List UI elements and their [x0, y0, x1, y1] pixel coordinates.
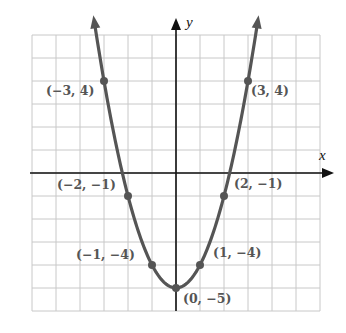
coordinate-axes: x y: [30, 14, 334, 311]
point-label: (2, −1): [234, 176, 282, 191]
plotted-point: [172, 284, 180, 292]
point-labels: (−3, 4) (−2, −1) (−1, −4) (0, −5) (1, −4…: [46, 83, 289, 306]
curve-arrow-right-icon: [252, 15, 262, 29]
x-axis-arrow-icon: [322, 168, 334, 178]
point-label: (−3, 4): [46, 83, 94, 98]
point-label: (−1, −4): [76, 247, 135, 262]
point-label: (0, −5): [183, 291, 231, 306]
plotted-point: [100, 77, 108, 85]
y-axis-label: y: [184, 14, 193, 30]
point-label: (1, −4): [213, 245, 261, 260]
point-label: (−2, −1): [57, 177, 116, 192]
plotted-point: [148, 261, 156, 269]
plotted-point: [124, 192, 132, 200]
plotted-point: [220, 192, 228, 200]
point-label: (3, 4): [251, 83, 289, 98]
plotted-point: [196, 261, 204, 269]
parabola-graph: x y (−3, 4) (−2, −1) (−1, −4) (0, −5) (1…: [0, 0, 346, 333]
x-axis-label: x: [318, 147, 326, 163]
curve-arrow-left-icon: [90, 15, 100, 29]
y-axis-arrow-icon: [171, 18, 181, 30]
